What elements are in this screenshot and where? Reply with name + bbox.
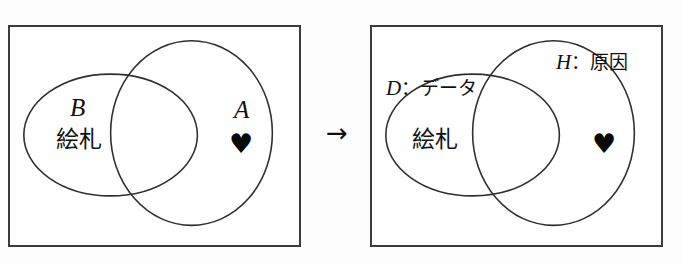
venn-diagram-figure: B 絵札 A ♥ → D：データ 絵札 H：原因 ♥ <box>0 0 682 264</box>
set-d-label: D：データ <box>386 78 477 99</box>
heart-suit-icon-before: ♥ <box>229 130 253 157</box>
venn-curves-before <box>10 27 299 245</box>
set-h-label-separator: ： <box>571 51 590 73</box>
transition-arrow-icon: → <box>318 122 356 144</box>
set-h-label-jp: 原因 <box>590 51 628 73</box>
set-d-label-jp: データ <box>420 77 477 99</box>
set-b-label: B <box>70 95 85 120</box>
set-h-label: H：原因 <box>556 52 628 73</box>
set-a-label: A <box>234 97 249 122</box>
set-b-sublabel: 絵札 <box>56 128 102 151</box>
set-d-label-latin: D <box>386 76 401 100</box>
set-h-label-latin: H <box>556 50 571 74</box>
panel-before <box>8 25 301 247</box>
set-d-label-separator: ： <box>401 77 420 99</box>
set-d-sublabel: 絵札 <box>412 128 458 151</box>
heart-suit-icon-after: ♥ <box>592 130 616 157</box>
